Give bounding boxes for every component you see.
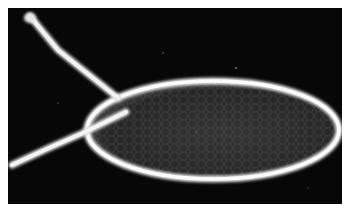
- upper-stalk: [24, 13, 118, 98]
- egg-illustration: [8, 8, 342, 204]
- photo: [8, 8, 342, 204]
